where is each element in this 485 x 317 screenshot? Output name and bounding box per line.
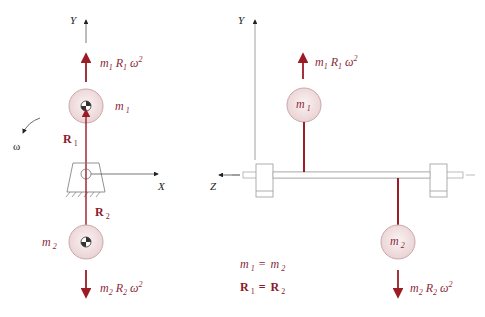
- force-label-1: m1R1ω2: [315, 54, 358, 71]
- right-view: Y m1R1ω2 m1 Z m2: [210, 14, 475, 297]
- mass-label-2: m2: [42, 235, 57, 251]
- mass-label-1: m1: [115, 99, 130, 115]
- center-of-mass-icon: [81, 101, 91, 111]
- force-label-1: m1R1ω2: [100, 55, 143, 72]
- equation-mass: m1=m2: [240, 257, 285, 273]
- x-axis-label: X: [157, 180, 166, 192]
- left-view: Y m1R1ω2 m1 ω R1: [13, 14, 166, 297]
- rotation-arrow-icon: [23, 118, 40, 133]
- z-axis-label: Z: [210, 180, 217, 192]
- radius-label-2: R2: [95, 205, 110, 221]
- force-label-2: m2R2ω2: [410, 280, 453, 297]
- bearing-right-icon: [430, 164, 447, 197]
- omega-label: ω: [13, 140, 20, 152]
- equation-radius: R1=R2: [240, 280, 285, 296]
- y-axis-label: Y: [70, 14, 78, 26]
- balancing-diagram: Y m1R1ω2 m1 ω R1: [0, 0, 485, 317]
- bearing-left-icon: [256, 164, 273, 197]
- radius-label-1: R1: [63, 132, 78, 148]
- force-label-2: m2R2ω2: [100, 280, 143, 297]
- center-of-mass-icon: [81, 237, 91, 247]
- shaft-body: [273, 172, 430, 178]
- y-axis-label: Y: [238, 14, 246, 26]
